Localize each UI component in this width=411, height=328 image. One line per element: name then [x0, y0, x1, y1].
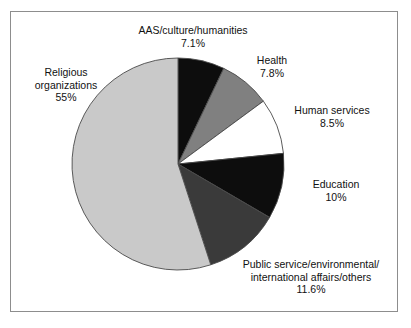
slice-label-education-name: Education	[273, 178, 399, 191]
slice-label-aas-culture-humanities: AAS/culture/humanities 7.1%	[93, 24, 293, 49]
slice-label-aas-value: 7.1%	[93, 37, 293, 50]
slice-label-public-service: Public service/environmental/ internatio…	[222, 258, 400, 296]
slice-label-religious-value: 55%	[6, 91, 126, 104]
slice-label-human-services: Human services 8.5%	[259, 104, 405, 129]
slice-label-education: Education 10%	[273, 178, 399, 203]
slice-label-education-value: 10%	[273, 191, 399, 204]
slice-label-aas-name: AAS/culture/humanities	[93, 24, 293, 37]
slice-label-health-value: 7.8%	[212, 67, 332, 80]
slice-label-religious-organizations: Religious organizations 55%	[6, 66, 126, 104]
slice-label-human-services-value: 8.5%	[259, 117, 405, 130]
slice-label-public-service-name-1: Public service/environmental/	[222, 258, 400, 271]
slice-label-public-service-name-2: international affairs/others	[222, 271, 400, 284]
slice-label-public-service-value: 11.6%	[222, 283, 400, 296]
slice-label-health-name: Health	[212, 54, 332, 67]
figure-canvas: AAS/culture/humanities 7.1% Health 7.8% …	[0, 0, 411, 328]
slice-label-religious-name-1: Religious	[6, 66, 126, 79]
slice-label-human-services-name: Human services	[259, 104, 405, 117]
slice-label-health: Health 7.8%	[212, 54, 332, 79]
slice-label-religious-name-2: organizations	[6, 79, 126, 92]
pie-chart: AAS/culture/humanities 7.1% Health 7.8% …	[0, 0, 411, 328]
